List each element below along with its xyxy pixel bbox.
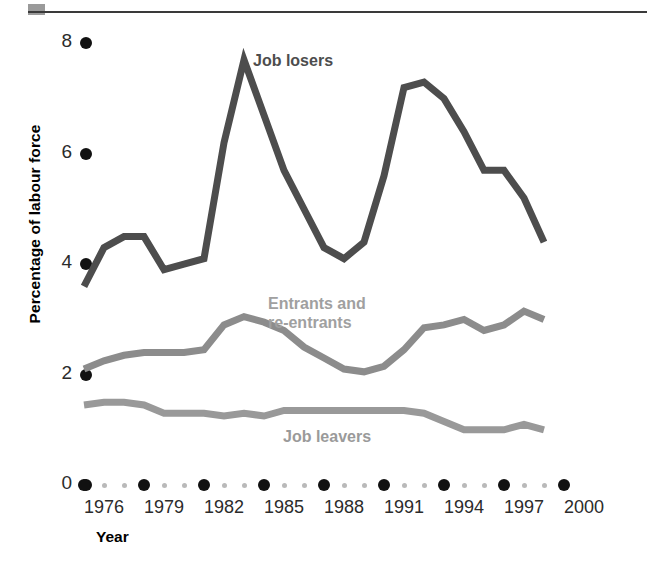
series-label-entrants: Entrants and re-entrants <box>268 295 366 333</box>
series-line <box>84 402 544 430</box>
chart-figure: Percentage of labour force 86420 1976197… <box>0 0 647 566</box>
plot-area <box>0 0 647 566</box>
series-line <box>84 60 544 286</box>
x-axis-title: Year <box>96 528 129 546</box>
series-label-job-losers: Job losers <box>253 52 333 71</box>
series-label-job-leavers: Job leavers <box>283 428 371 447</box>
